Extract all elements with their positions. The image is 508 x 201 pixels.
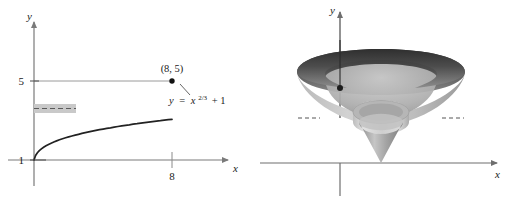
marked-point [169, 78, 174, 83]
x-axis-label-3d: x [494, 168, 500, 180]
curve-label-plus: + 1 [212, 95, 226, 106]
curve-label-leader [180, 84, 190, 95]
curve-label-base: x [190, 95, 196, 106]
right-solid-svg: y x [254, 0, 508, 201]
figure-root: 5 1 8 y x (8, 5) y = x 2/3 + 1 [0, 0, 508, 201]
x-tick-label-8: 8 [169, 170, 175, 182]
left-graph-panel: 5 1 8 y x (8, 5) y = x 2/3 + 1 [0, 0, 254, 201]
y-tick-label-1: 1 [19, 154, 25, 166]
funnel-tip-base-ellipse [359, 114, 403, 130]
center-dot [337, 85, 343, 91]
point-label: (8, 5) [161, 63, 184, 75]
curve-label-exponent: 2/3 [198, 94, 207, 102]
svg-text:y = x: y = x 2/3 + 1 [168, 91, 226, 106]
y-axis-label: y [26, 10, 32, 22]
curve-equation-label: y = x 2/3 + 1 [168, 91, 226, 106]
curve-label-eq: = [179, 95, 185, 106]
y-tick-label-5: 5 [19, 75, 25, 87]
right-solid-panel: y x [254, 0, 508, 201]
curve-path [34, 119, 172, 160]
x-axis-label: x [232, 162, 238, 174]
y-axis-label-3d: y [329, 4, 335, 16]
curve-label-lhs: y [168, 95, 174, 106]
left-graph-svg: 5 1 8 y x (8, 5) y = x 2/3 + 1 [0, 0, 254, 201]
